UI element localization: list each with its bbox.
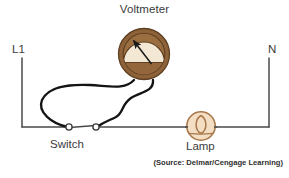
lamp-label: Lamp (186, 141, 215, 153)
switch-label: Switch (50, 139, 84, 151)
circuit-diagram-svg (0, 0, 289, 178)
voltmeter-test-leads (41, 80, 153, 127)
diagram-canvas: Voltmeter L1 N Switch Lamp (Source: Delm… (0, 0, 289, 178)
voltmeter-symbol[interactable] (119, 29, 170, 80)
switch-terminal-right (93, 124, 99, 130)
voltmeter-label: Voltmeter (0, 4, 289, 16)
voltmeter-lead-left (41, 80, 134, 127)
source-attribution: (Source: Delmar/Cengage Learning) (0, 159, 283, 167)
line-terminal-label: L1 (12, 44, 25, 56)
switch-terminal-left (66, 124, 72, 130)
neutral-terminal-label: N (268, 44, 276, 56)
lamp-symbol[interactable] (185, 112, 217, 140)
switch-symbol[interactable] (66, 124, 99, 130)
switch-blade (70, 126, 96, 128)
